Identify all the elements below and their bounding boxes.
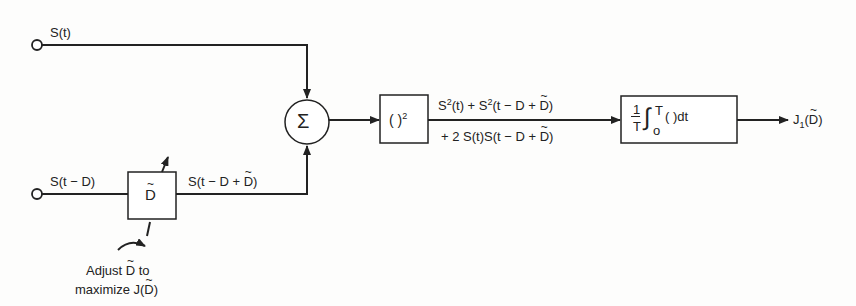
input-terminal-s-t [32,40,42,50]
square-label: ( )2 [389,112,407,128]
delay-output-label: S(t − D + D) [188,175,257,188]
input1-label: S(t) [50,26,71,39]
adjust-arrow [162,157,168,172]
integrator-label: 1 T ∫ T o ( )dt [633,101,733,141]
sum-symbol: Σ [297,110,309,133]
adjust-curve-arrow [118,243,145,250]
delay-symbol: D [145,186,156,203]
input-terminal-s-t-d [32,189,42,199]
expression-line1: S2(t) + S2(t − D + D) [438,99,553,112]
expression-line2: + 2 S(t)S(t − D + D) [441,130,553,143]
wire-s-t-to-sum [42,45,307,98]
output-label: J1(D) [793,113,823,126]
block-diagram: S(t) S(t − D) D S(t − D + D) Σ ( )2 S2(t… [0,0,856,306]
adjust-caption-line2: maximize J(D) [75,283,158,296]
input2-label: S(t − D) [50,175,95,188]
adjust-caption-line1: Adjust D to [86,264,150,277]
